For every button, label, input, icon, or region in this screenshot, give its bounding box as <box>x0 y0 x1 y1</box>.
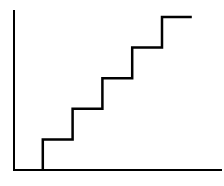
step-series-line <box>43 17 192 170</box>
step-chart <box>0 0 224 186</box>
